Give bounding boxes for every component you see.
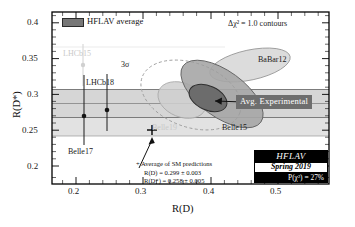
plot-canvas (0, 0, 355, 227)
x-axis-title: R(D) (172, 204, 194, 215)
label-belle17: Belle17 (68, 148, 93, 156)
y-tick-label-0.3: 0.3 (27, 90, 38, 99)
contour-note: Δχ² = 1.0 contours (228, 20, 287, 28)
x-tick-label-0.4: 0.4 (203, 187, 214, 196)
figure-root: 0.4 0.35 0.3 0.25 0.2 0.2 0.3 0.4 0.5 R(… (0, 0, 355, 227)
band-rdstar-outer (52, 118, 329, 137)
point-belle17 (82, 114, 87, 119)
legend-label-hflav-average: HFLAV average (87, 17, 143, 26)
x-tick-label-0.5: 0.5 (270, 187, 281, 196)
label-lhcb18: LHCb18 (86, 79, 114, 87)
label-lhcb15: LHCb15 (63, 50, 91, 58)
point-lhcb15 (81, 63, 85, 67)
y-tick-label-0.2: 0.2 (27, 162, 38, 171)
label-babar12: BaBar12 (258, 56, 286, 64)
legend-swatch-hflav-average (62, 18, 84, 27)
y-tick-label-0.25: 0.25 (22, 126, 38, 135)
sm-prediction-plus-marker: + (136, 160, 140, 167)
label-3-sigma: 3σ (121, 61, 129, 69)
x-tick-label-0.3: 0.3 (135, 187, 146, 196)
hflav-logo: HFLAV Spring 2019 P(χ²) = 27% (254, 150, 328, 183)
sm-prediction-block: + Average of SM predictions R(D) = 0.299… (136, 160, 212, 186)
hflav-logo-title: HFLAV (255, 151, 327, 162)
sm-prediction-rdstar: R(D*) = 0.258 ± 0.005 (136, 177, 212, 186)
avg-experimental-callout: Avg. Experimental (236, 95, 312, 109)
sm-prediction-header-row: + Average of SM predictions (136, 160, 212, 169)
y-tick-label-0.35: 0.35 (22, 54, 38, 63)
sm-prediction-rd: R(D) = 0.299 ± 0.003 (136, 169, 212, 178)
sm-prediction-header: Average of SM predictions (141, 160, 212, 167)
label-belle19: Belle19 (152, 124, 177, 132)
hflav-logo-season: Spring 2019 (255, 162, 327, 173)
x-tick-label-0.2: 0.2 (68, 187, 79, 196)
hflav-logo-probability: P(χ²) = 27% (255, 173, 327, 182)
y-axis-title: R(D*) (12, 91, 23, 118)
y-tick-label-0.4: 0.4 (27, 18, 38, 27)
label-belle15: Belle15 (222, 124, 247, 132)
point-lhcb18 (105, 108, 110, 113)
